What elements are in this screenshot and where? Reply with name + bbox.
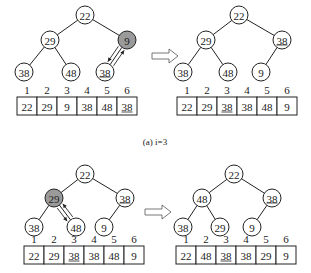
array-index: 5 (104, 84, 110, 96)
array-index: 1 (24, 84, 30, 96)
array-value: 38 (89, 250, 101, 262)
heap-array: 12224833843852969 (176, 233, 296, 264)
node-label: 9 (124, 35, 130, 47)
right-arrow-icon (145, 205, 171, 219)
node-label: 38 (29, 222, 41, 234)
tree-node: 38 (273, 31, 291, 49)
tree-edge (57, 20, 77, 35)
tree-edge (109, 205, 119, 219)
node-label: 9 (258, 67, 264, 79)
node-label: 48 (197, 193, 209, 205)
array-value: 22 (22, 101, 33, 113)
heap-array: 12222933843854869 (177, 84, 297, 115)
tree-edge (93, 20, 120, 36)
array-index: 4 (243, 233, 249, 245)
tree-edge (209, 179, 227, 192)
array-value: 29 (49, 250, 61, 262)
array-value: 48 (201, 250, 213, 262)
tree-edge (30, 47, 45, 65)
heap-array: 12222933843854869 (24, 233, 144, 264)
array-index: 3 (71, 233, 77, 245)
tree-edge (93, 179, 118, 194)
node-label: 29 (215, 222, 227, 234)
tree-node: 38 (263, 189, 281, 207)
array-value: 9 (131, 250, 137, 262)
array-value: 38 (221, 250, 233, 262)
node-label: 29 (45, 35, 57, 47)
array-index: 2 (203, 233, 209, 245)
tree-edge (61, 180, 78, 193)
node-label: 22 (229, 169, 240, 181)
array-index: 4 (244, 84, 250, 96)
tree-edge (55, 48, 66, 65)
transition-arrows (145, 49, 178, 219)
node-label: 22 (80, 169, 91, 181)
array-value: 48 (102, 101, 114, 113)
array-value: 29 (42, 101, 54, 113)
heapify-diagram: 2229938483822293838489222938384892248383… (0, 0, 311, 273)
heap-array: 12222939438548638 (17, 84, 137, 115)
tree-node: 9 (252, 63, 270, 81)
array-value: 22 (181, 250, 192, 262)
node-label: 48 (71, 222, 83, 234)
tree-node: 48 (193, 189, 211, 207)
array-value: 9 (284, 101, 290, 113)
node-label: 22 (234, 10, 245, 22)
tree-node: 29 (197, 31, 215, 49)
array-index: 4 (91, 233, 97, 245)
tree-node: 22 (225, 165, 243, 183)
array-index: 5 (264, 84, 270, 96)
tree-edge (188, 206, 197, 220)
array-index: 2 (44, 84, 50, 96)
array-index: 2 (51, 233, 57, 245)
array-value: 29 (202, 101, 214, 113)
tree-edge (207, 206, 216, 220)
array-value: 22 (29, 250, 40, 262)
array-value: 38 (242, 101, 254, 113)
array-index: 4 (84, 84, 90, 96)
caption-a: (a) i=3 (143, 137, 168, 147)
tree-edges (30, 20, 277, 222)
tree-edge (266, 48, 277, 65)
array-index: 1 (184, 84, 190, 96)
array-index: 3 (64, 84, 70, 96)
array-index: 1 (183, 233, 189, 245)
tree-node: 22 (230, 6, 248, 24)
array-index: 5 (111, 233, 117, 245)
node-label: 38 (19, 67, 31, 79)
array-index: 3 (223, 233, 229, 245)
tree-edge (188, 47, 200, 64)
node-label: 38 (178, 222, 190, 234)
tree-node: 22 (76, 6, 94, 24)
node-label: 38 (178, 67, 190, 79)
tree-node: 22 (76, 165, 94, 183)
array-value: 38 (69, 250, 81, 262)
tree-node: 29 (41, 31, 59, 49)
node-label: 9 (249, 222, 255, 234)
tree-node: 38 (174, 63, 192, 81)
node-label: 29 (49, 193, 61, 205)
tree-edge (213, 20, 232, 34)
array-value: 9 (283, 250, 289, 262)
node-label: 48 (223, 67, 235, 79)
tree-node: 38 (116, 189, 134, 207)
array-value: 22 (182, 101, 193, 113)
tree-node: 38 (15, 63, 33, 81)
tree-edge (211, 47, 223, 64)
tree-edge (39, 205, 49, 219)
array-value: 48 (109, 250, 121, 262)
array-value: 9 (64, 101, 70, 113)
heap-arrays: 1222293943854863812222933843854869122229… (17, 84, 297, 264)
tree-node: 38 (96, 63, 114, 81)
tree-edge (242, 179, 265, 193)
array-index: 2 (204, 84, 210, 96)
array-value: 38 (241, 250, 253, 262)
array-index: 6 (283, 233, 289, 245)
array-index: 6 (131, 233, 137, 245)
array-index: 6 (124, 84, 130, 96)
tree-edge (247, 20, 274, 36)
tree-node: 48 (62, 63, 80, 81)
tree-node: 29 (45, 189, 63, 207)
array-value: 29 (261, 250, 273, 262)
array-index: 5 (263, 233, 269, 245)
